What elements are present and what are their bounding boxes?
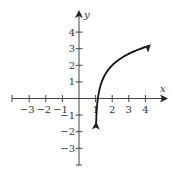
x-axis: −3−2−11234 x [12,83,166,115]
y-tick-label: 3 [69,43,75,54]
x-tick-label: 2 [109,104,115,115]
y-tick-label: −3 [60,143,75,154]
x-tick-label: −3 [20,104,35,115]
x-tick-label: 3 [126,104,132,115]
x-tick-label: 4 [142,104,148,115]
y-axis: 4321−1−2−3 y [60,9,90,165]
y-axis-label: y [83,9,90,20]
y-tick-label: −1 [60,110,75,121]
y-tick-label: 1 [69,76,75,87]
x-tick-label: −2 [36,104,51,115]
y-tick-label: 4 [69,27,75,38]
chart: −3−2−11234 x 4321−1−2−3 y [0,0,173,174]
y-tick-label: 2 [69,60,75,71]
y-tick-label: −2 [60,126,75,137]
x-axis-label: x [160,83,166,94]
